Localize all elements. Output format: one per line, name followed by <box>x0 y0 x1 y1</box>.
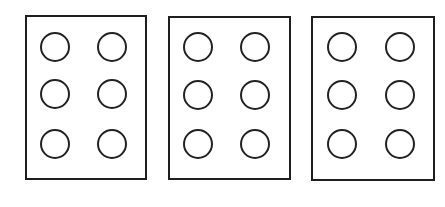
dot-2-icon <box>183 80 213 110</box>
dot-2-icon <box>40 79 70 109</box>
dot-6-icon <box>240 129 270 159</box>
dot-3-icon <box>40 129 70 159</box>
dot-1-icon <box>183 32 213 62</box>
dot-5-icon <box>240 80 270 110</box>
dot-6-icon <box>97 129 127 159</box>
dot-1-icon <box>327 32 357 62</box>
dot-3-icon <box>183 129 213 159</box>
dot-1-icon <box>40 32 70 62</box>
dot-4-icon <box>97 32 127 62</box>
dot-2-icon <box>327 80 357 110</box>
braille-cell-3 <box>311 16 435 181</box>
dot-3-icon <box>327 129 357 159</box>
dot-4-icon <box>385 32 415 62</box>
dot-6-icon <box>385 129 415 159</box>
braille-cell-1 <box>25 15 147 180</box>
dot-5-icon <box>97 79 127 109</box>
dot-4-icon <box>240 32 270 62</box>
braille-cell-2 <box>168 16 291 180</box>
dot-5-icon <box>385 80 415 110</box>
